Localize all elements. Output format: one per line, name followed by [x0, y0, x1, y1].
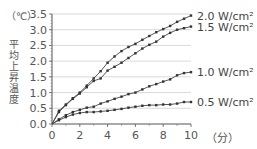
data-marker: [93, 80, 95, 82]
x-axis-unit: （分）: [206, 132, 239, 145]
y-tick-label: 1.5: [30, 71, 48, 84]
data-marker: [99, 70, 101, 72]
data-marker: [162, 103, 164, 105]
data-marker: [176, 102, 178, 104]
data-marker: [113, 109, 115, 111]
data-marker: [120, 95, 122, 97]
data-marker: [113, 55, 115, 57]
data-marker: [127, 46, 129, 48]
data-marker: [120, 108, 122, 110]
y-axis-label-char: 上: [9, 61, 19, 72]
data-marker: [79, 109, 81, 111]
data-marker: [155, 31, 157, 33]
data-marker: [79, 112, 81, 114]
gridlines: [52, 14, 191, 108]
y-tick-label: 0.0: [30, 118, 48, 131]
series-label: 0.5 W/cm²: [197, 96, 254, 109]
data-marker: [176, 74, 178, 76]
data-marker: [190, 71, 192, 73]
data-marker: [127, 57, 129, 59]
series-0: [52, 14, 192, 124]
x-tick-label: 8: [160, 129, 167, 142]
data-marker: [106, 69, 108, 71]
data-marker: [106, 62, 108, 64]
data-marker: [183, 101, 185, 103]
data-marker: [183, 72, 185, 74]
data-marker: [93, 77, 95, 79]
data-marker: [106, 110, 108, 112]
data-marker: [65, 116, 67, 118]
data-marker: [183, 27, 185, 29]
data-marker: [141, 88, 143, 90]
line-chart: 0.00.51.01.52.02.53.03.5 0246810 2.0 W/c…: [0, 0, 257, 149]
series-labels: 2.0 W/cm²1.5 W/cm²1.0 W/cm²0.5 W/cm²: [197, 10, 254, 109]
y-axis-label: 平均上昇温度: [9, 39, 19, 105]
y-axis-label-char: 均: [9, 50, 19, 61]
data-marker: [190, 101, 192, 103]
data-marker: [190, 14, 192, 16]
data-marker: [141, 39, 143, 41]
series-label: 1.0 W/cm²: [197, 66, 254, 79]
x-tick-label: 6: [132, 129, 139, 142]
data-marker: [141, 105, 143, 107]
data-marker: [155, 40, 157, 42]
data-marker: [113, 98, 115, 100]
data-marker: [99, 102, 101, 104]
data-marker: [72, 111, 74, 113]
data-marker: [106, 100, 108, 102]
data-marker: [134, 52, 136, 54]
data-marker: [58, 119, 60, 121]
data-marker: [86, 86, 88, 88]
data-marker: [176, 21, 178, 23]
data-marker: [65, 104, 67, 106]
data-marker: [58, 111, 60, 113]
data-marker: [113, 66, 115, 68]
series-label: 1.5 W/cm²: [197, 21, 254, 34]
data-marker: [162, 80, 164, 82]
data-marker: [134, 91, 136, 93]
data-marker: [169, 25, 171, 27]
x-tick-label: 10: [184, 129, 198, 142]
y-tick-label: 2.5: [30, 39, 48, 52]
y-axis-label-char: 温: [9, 83, 19, 94]
data-marker: [148, 44, 150, 46]
data-marker: [72, 113, 74, 115]
y-tick-label: 0.5: [30, 102, 48, 115]
data-marker: [86, 111, 88, 113]
data-marker: [127, 93, 129, 95]
data-marker: [79, 92, 81, 94]
data-marker: [155, 104, 157, 106]
data-marker: [155, 83, 157, 85]
data-marker: [169, 32, 171, 34]
data-marker: [134, 106, 136, 108]
y-tick-label: 1.0: [30, 87, 48, 100]
data-marker: [127, 106, 129, 108]
x-tick-label: 2: [76, 129, 83, 142]
axes: [52, 14, 191, 124]
y-axis-label-char: 度: [9, 93, 19, 105]
x-tick-label: 4: [104, 129, 111, 142]
data-marker: [72, 98, 74, 100]
data-marker: [162, 28, 164, 30]
data-marker: [169, 103, 171, 105]
data-marker: [183, 18, 185, 20]
y-axis-label-char: 昇: [9, 72, 19, 83]
data-marker: [169, 78, 171, 80]
data-marker: [93, 106, 95, 108]
data-marker: [162, 35, 164, 37]
data-marker: [120, 50, 122, 52]
y-axis-unit: （℃）: [6, 11, 37, 22]
y-tick-label: 3.0: [30, 24, 48, 37]
data-marker: [148, 85, 150, 87]
data-marker: [93, 111, 95, 113]
data-series: [52, 14, 192, 124]
data-marker: [99, 110, 101, 112]
x-axis-ticks: 0246810: [49, 124, 199, 142]
x-tick-label: 0: [49, 129, 56, 142]
data-marker: [86, 106, 88, 108]
data-marker: [148, 104, 150, 106]
data-marker: [176, 29, 178, 31]
data-marker: [141, 47, 143, 49]
data-marker: [120, 62, 122, 64]
y-axis-label-char: 平: [9, 39, 19, 50]
